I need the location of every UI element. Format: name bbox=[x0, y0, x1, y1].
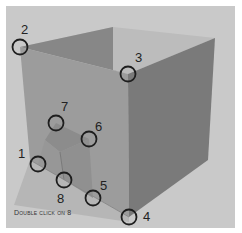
marker-label-7: 7 bbox=[61, 99, 68, 114]
marker-label-6: 6 bbox=[95, 119, 102, 134]
instruction-caption: Double click on 8 bbox=[14, 209, 71, 216]
marker-label-5: 5 bbox=[100, 178, 107, 193]
marker-label-1: 1 bbox=[18, 146, 25, 161]
marker-label-8: 8 bbox=[57, 191, 64, 206]
marker-label-4: 4 bbox=[143, 209, 150, 224]
cube-diagram: 1 2 3 4 5 6 7 8 bbox=[0, 0, 242, 233]
marker-label-2: 2 bbox=[21, 22, 28, 37]
marker-label-3: 3 bbox=[135, 50, 142, 65]
